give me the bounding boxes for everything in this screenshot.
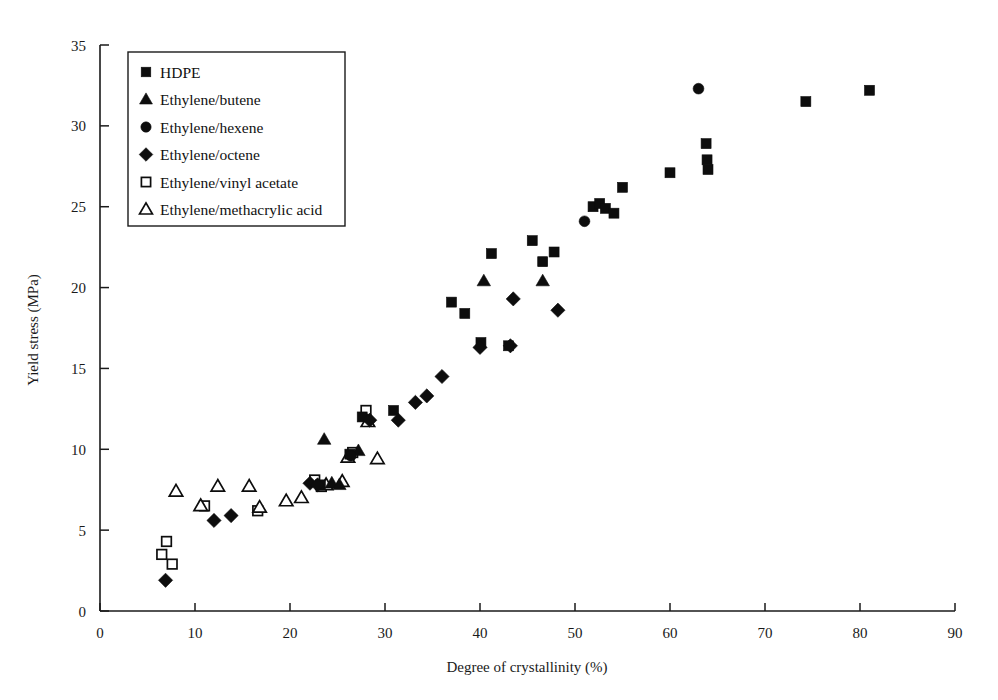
data-point-filled-square	[865, 85, 875, 95]
data-point-filled-square	[460, 308, 470, 318]
x-tick-label: 80	[853, 625, 868, 641]
x-tick-label: 0	[96, 625, 104, 641]
x-tick-label: 30	[378, 625, 393, 641]
x-tick-label: 90	[948, 625, 963, 641]
data-point-filled-square	[538, 257, 548, 267]
x-tick-label: 10	[188, 625, 203, 641]
y-tick-label: 35	[71, 38, 86, 54]
data-point-filled-square	[549, 247, 559, 257]
x-tick-label: 50	[568, 625, 583, 641]
data-point-filled-square	[609, 208, 619, 218]
data-point-filled-square	[701, 139, 711, 149]
data-point-open-square	[162, 537, 172, 547]
legend: HDPEEthylene/buteneEthylene/hexeneEthyle…	[128, 52, 345, 226]
y-tick-label: 15	[71, 361, 86, 377]
y-tick-label: 30	[71, 118, 86, 134]
x-tick-label: 40	[473, 625, 488, 641]
legend-marker-open-square	[141, 177, 150, 186]
data-point-filled-square	[486, 249, 496, 259]
legend-label: Ethylene/octene	[160, 146, 260, 163]
y-tick-label: 25	[71, 199, 86, 215]
data-point-filled-square	[618, 182, 628, 192]
y-axis-title: Yield stress (MPa)	[25, 274, 42, 386]
legend-marker-filled-square	[141, 67, 151, 77]
data-point-filled-square	[665, 168, 675, 178]
y-tick-label: 20	[71, 280, 86, 296]
x-axis-title: Degree of crystallinity (%)	[446, 659, 607, 676]
y-tick-label: 0	[79, 604, 87, 620]
data-point-filled-square	[702, 155, 712, 165]
legend-label: Ethylene/butene	[160, 91, 261, 108]
data-point-filled-square	[527, 236, 537, 246]
legend-label: Ethylene/vinyl acetate	[160, 174, 298, 191]
x-tick-label: 70	[758, 625, 773, 641]
legend-label: Ethylene/methacrylic acid	[160, 201, 322, 218]
data-point-filled-square	[801, 97, 811, 107]
data-point-filled-circle	[345, 450, 356, 461]
data-point-open-square	[167, 559, 177, 569]
data-point-filled-circle	[693, 83, 704, 94]
data-point-open-square	[157, 550, 167, 560]
data-point-filled-circle	[579, 216, 590, 227]
legend-marker-filled-circle	[141, 122, 151, 132]
data-point-filled-square	[447, 297, 457, 307]
chart-root: 010203040506070809005101520253035 HDPEEt…	[0, 0, 998, 700]
legend-label: Ethylene/hexene	[160, 119, 263, 136]
x-tick-label: 60	[663, 625, 678, 641]
y-tick-label: 10	[71, 442, 86, 458]
data-point-filled-square	[703, 165, 713, 175]
x-tick-label: 20	[283, 625, 298, 641]
y-tick-label: 5	[79, 523, 87, 539]
legend-label: HDPE	[160, 64, 200, 81]
scatter-chart: 010203040506070809005101520253035 HDPEEt…	[0, 0, 998, 700]
